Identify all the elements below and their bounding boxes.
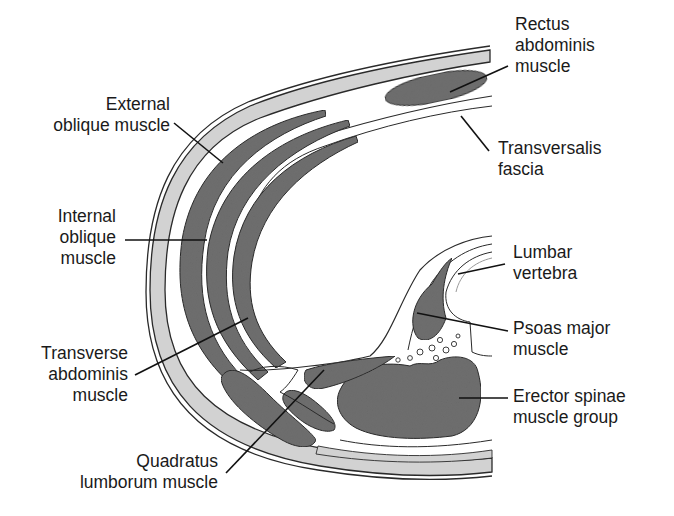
label-quadratus-lumborum: Quadratus lumborum muscle <box>60 451 218 493</box>
label-external-oblique: External oblique muscle <box>30 94 170 136</box>
label-transverse-abdominis: Transverse abdominis muscle <box>0 343 128 406</box>
label-rectus-abdominis: Rectus abdominis muscle <box>515 14 595 77</box>
label-lumbar-vertebra: Lumbar vertebra <box>513 242 577 284</box>
label-internal-oblique: Internal oblique muscle <box>20 206 116 269</box>
leader-transversalis <box>461 116 489 151</box>
anatomy-diagram: Rectus abdominis muscle Transversalis fa… <box>0 0 674 516</box>
label-psoas-major: Psoas major muscle <box>513 318 610 360</box>
label-erector-spinae: Erector spinae muscle group <box>513 386 626 428</box>
label-transversalis-fascia: Transversalis fascia <box>498 138 601 180</box>
